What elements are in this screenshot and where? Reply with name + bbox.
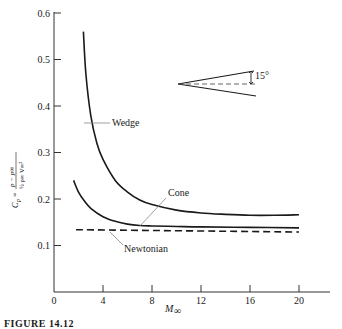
series-newtonian-line <box>76 230 299 232</box>
svg-text:M: M <box>164 303 174 314</box>
x-tick-label: 0 <box>52 295 57 306</box>
newtonian-label: Newtonian <box>124 243 168 254</box>
inset-body-diagram: 15° <box>178 70 269 96</box>
chart: 0.10.20.30.40.50.6 048121620 Wedge Cone … <box>0 0 342 329</box>
y-tick-label: 0.2 <box>38 194 51 205</box>
x-tick-label: 16 <box>245 295 255 306</box>
y-tick-label: 0.5 <box>38 54 51 65</box>
svg-text:=: = <box>11 192 20 197</box>
y-ticks: 0.10.20.30.40.50.6 <box>38 8 62 252</box>
x-tick-label: 12 <box>196 295 206 306</box>
y-tick-label: 0.3 <box>38 147 51 158</box>
svg-text:∞: ∞ <box>174 305 181 316</box>
angle-label: 15° <box>255 70 269 81</box>
y-tick-label: 0.6 <box>38 8 51 19</box>
x-tick-label: 20 <box>294 295 304 306</box>
y-axis-title: C p = p − p∞ ½ ρ∞ V∞² <box>8 152 25 208</box>
newtonian-leader <box>110 232 123 245</box>
x-axis-title: M ∞ <box>164 303 181 316</box>
series-group <box>74 32 299 232</box>
x-ticks: 048121620 <box>52 285 305 306</box>
y-tick-label: 0.4 <box>38 101 51 112</box>
wedge-label: Wedge <box>112 117 140 128</box>
svg-text:½ ρ∞ V∞²: ½ ρ∞ V∞² <box>18 162 25 189</box>
figure-caption: FIGURE 14.12 <box>4 318 74 329</box>
x-tick-label: 4 <box>101 295 106 306</box>
x-tick-label: 8 <box>150 295 155 306</box>
svg-text:p − p∞: p − p∞ <box>8 167 16 188</box>
y-tick-label: 0.1 <box>38 240 51 251</box>
cone-label: Cone <box>168 187 190 198</box>
svg-text:p: p <box>15 199 21 203</box>
